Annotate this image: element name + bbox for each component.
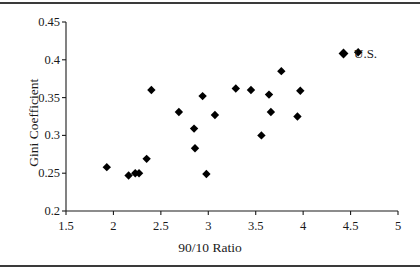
data-point-marker [175,108,183,116]
data-point-marker [277,67,285,75]
data-point-marker [190,124,198,132]
legend: U.S. [340,47,377,60]
y-tick-label: 0.2 [18,205,60,218]
data-point-marker [247,86,255,94]
data-point-marker [198,92,206,100]
figure-container: 0.20.250.30.350.40.45 1.522.533.544.55 G… [0,0,420,279]
x-tick-label: 1.5 [58,220,74,233]
data-point-marker [296,87,304,95]
data-point-marker [124,171,132,179]
y-tick-label: 0.45 [18,16,60,29]
data-point-marker [293,112,301,120]
data-point-marker [202,170,210,178]
x-tick-label: 4 [300,220,306,233]
data-point-marker [103,163,111,171]
data-point-marker [142,155,150,163]
x-tick-label: 2 [110,220,116,233]
data-point-marker [232,84,240,92]
legend-label-us: U.S. [354,47,377,60]
x-axis-title: 90/10 Ratio [0,241,420,255]
data-point-marker [147,86,155,94]
x-tick-marks [66,211,398,215]
x-tick-label: 5 [395,220,401,233]
data-point-marker [257,131,265,139]
data-point-marker [267,108,275,116]
data-point-marker [191,144,199,152]
x-tick-label: 3.5 [248,220,264,233]
x-tick-label: 2.5 [153,220,169,233]
legend-diamond-icon [339,49,349,59]
scatter-plot-canvas [0,0,420,279]
x-tick-label: 3 [205,220,211,233]
y-axis-title: Gini Coefficient [27,43,41,203]
data-point-marker [211,111,219,119]
x-tick-label: 4.5 [343,220,359,233]
data-point-marker [265,90,273,98]
data-points-group [103,48,363,180]
y-tick-marks [62,22,66,211]
